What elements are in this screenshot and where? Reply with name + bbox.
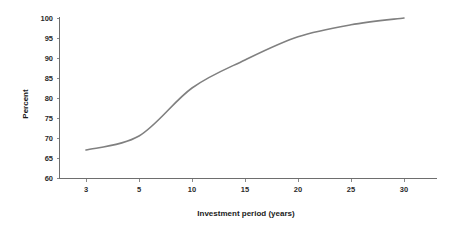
x-tick-label: 25 <box>347 185 355 194</box>
x-tick-label: 15 <box>241 185 249 194</box>
y-tick-label: 80 <box>45 94 53 103</box>
y-tick-label: 60 <box>45 174 53 183</box>
y-tick-label: 95 <box>45 34 53 43</box>
x-tick-label: 20 <box>294 185 302 194</box>
y-tick-label: 70 <box>45 134 53 143</box>
x-tick-label: 10 <box>188 185 196 194</box>
x-axis-title: Investment period (years) <box>197 209 295 218</box>
y-axis-title: Percent <box>21 89 30 119</box>
y-tick-label: 100 <box>40 14 53 23</box>
x-tick-label: 30 <box>400 185 408 194</box>
y-tick-label: 75 <box>45 114 53 123</box>
y-tick-label: 90 <box>45 54 53 63</box>
x-tick-label: 3 <box>84 185 88 194</box>
line-chart: Percent 6065707580859095100 351015202530… <box>0 0 451 235</box>
chart-figure: Percent 6065707580859095100 351015202530… <box>0 0 451 235</box>
y-tick-label: 85 <box>45 74 53 83</box>
y-tick-label: 65 <box>45 154 53 163</box>
chart-background <box>0 0 451 235</box>
x-tick-label: 5 <box>137 185 141 194</box>
